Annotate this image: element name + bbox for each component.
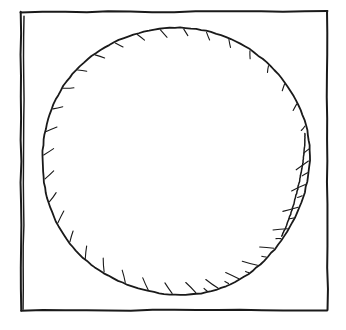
square-bottom-edge: [21, 310, 327, 311]
square-left-edge: [21, 12, 22, 311]
sketch-canvas: Hand-drawn circle inscribed in a square: [0, 0, 346, 330]
square-right-edge: [327, 11, 328, 310]
sketch-svg: Hand-drawn circle inscribed in a square: [0, 0, 346, 330]
canvas-background: [0, 0, 346, 330]
hatch-stroke: [63, 88, 74, 89]
square-top-edge: [21, 11, 328, 12]
square-left-edge-double: [23, 16, 24, 309]
